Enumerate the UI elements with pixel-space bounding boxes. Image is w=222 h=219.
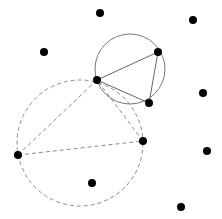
edge-dashed-p9-p5 [97,80,143,141]
point-p7 [199,89,207,97]
point-p12 [177,203,185,211]
edge-dashed-p8-p9 [18,141,143,155]
point-p11 [203,147,211,155]
point-p8 [14,151,22,159]
point-p3 [40,48,48,56]
points-layer [14,9,211,211]
edge-solid-p5-p4 [97,52,158,80]
delaunay-circumcircle-diagram [0,0,222,219]
edge-dashed-p5-p8 [18,80,97,155]
point-p9 [139,137,147,145]
point-p5 [93,76,101,84]
point-p6 [145,99,153,107]
point-p4 [154,48,162,56]
edge-solid-p6-p5 [97,80,149,103]
point-p2 [189,16,197,24]
point-p10 [88,179,96,187]
point-p1 [96,9,104,17]
